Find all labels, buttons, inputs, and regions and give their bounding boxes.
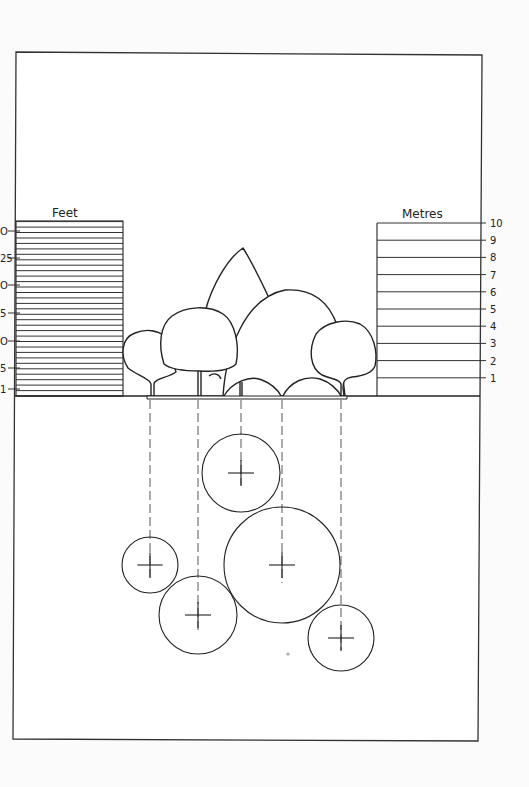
feet-tick-label: 5 xyxy=(0,308,6,319)
feet-scale-label: Feet xyxy=(52,206,78,220)
metre-tick-label: 2 xyxy=(490,356,496,367)
feet-tick-label: O xyxy=(0,336,8,347)
metre-tick-label: 4 xyxy=(490,321,496,332)
feet-tick-label: 25 xyxy=(0,253,13,264)
feet-tick-label: O xyxy=(0,226,8,237)
metre-tick-label: 8 xyxy=(490,252,496,263)
metre-tick-label: 3 xyxy=(490,338,496,349)
metre-tick-label: 10 xyxy=(490,218,503,229)
metre-tick-label: 9 xyxy=(490,235,496,246)
tree-medium-left-canopy xyxy=(161,308,238,371)
stray-mark xyxy=(286,652,289,655)
feet-tick-label: 5 xyxy=(0,363,6,374)
metre-tick-label: 5 xyxy=(490,304,496,315)
tree-scale-diagram: Feet O25O5O51 Metres 10987654321 xyxy=(0,0,529,787)
metre-tick-label: 6 xyxy=(490,287,496,298)
feet-tick-label: 1 xyxy=(0,384,6,395)
ground-bed xyxy=(147,396,347,399)
metres-scale-label: Metres xyxy=(402,207,443,221)
metre-tick-label: 1 xyxy=(490,373,496,384)
metre-tick-label: 7 xyxy=(490,270,496,281)
feet-tick-label: O xyxy=(0,280,8,291)
